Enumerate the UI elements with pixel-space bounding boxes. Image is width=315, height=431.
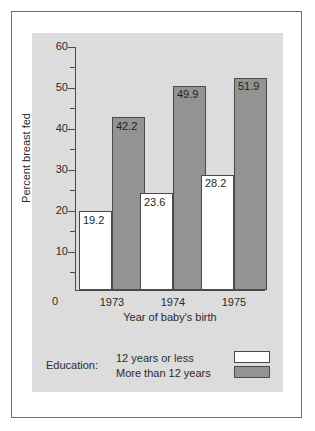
x-tick-label-1975: 1975 <box>214 296 254 308</box>
legend-label-12-years-or-less: 12 years or less <box>116 352 230 364</box>
x-axis-title: Year of baby's birth <box>75 311 265 323</box>
bar-value-1973-light: 19.2 <box>83 215 104 226</box>
x-tick-label-1974: 1974 <box>153 296 193 308</box>
bar-value-1975-light: 28.2 <box>205 178 226 189</box>
legend-entry-more-than-12-years[interactable]: More than 12 years <box>116 366 276 380</box>
white-swatch-icon <box>234 351 270 363</box>
legend-title: Education: <box>46 359 98 371</box>
legend-label-more-than-12-years: More than 12 years <box>116 367 230 379</box>
chart-figure: 60 50 40 30 20 10 Percent breast fed 0 1… <box>0 0 315 431</box>
gray-swatch-icon <box>234 366 270 378</box>
legend-entry-12-years-or-less[interactable]: 12 years or less <box>116 351 276 365</box>
bar-value-1974-dark: 49.9 <box>177 89 198 100</box>
bar-1975-12-years-or-less[interactable] <box>201 175 234 290</box>
legend: Education: 12 years or less More than 12… <box>46 350 276 382</box>
bar-1975-more-than-12-years[interactable] <box>234 78 267 290</box>
bar-value-1974-light: 23.6 <box>144 197 165 208</box>
bar-value-1975-dark: 51.9 <box>238 81 259 92</box>
bar-value-1973-dark: 42.2 <box>116 121 137 132</box>
x-tick-label-1973: 1973 <box>92 296 132 308</box>
